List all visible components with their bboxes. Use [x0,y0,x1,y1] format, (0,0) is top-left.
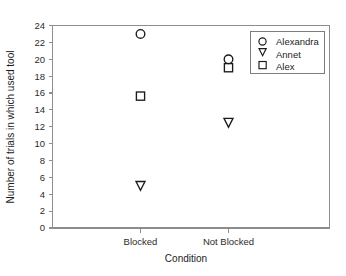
data-point-annet-blocked [136,182,145,191]
y-tick-label: 6 [40,172,45,183]
legend-label-alex: Alex [276,61,295,72]
y-tick-label: 10 [34,138,45,149]
legend-label-annet: Annet [276,49,301,60]
y-tick-label: 2 [40,205,45,216]
y-tick-label: 8 [40,155,45,166]
y-tick-label: 4 [40,189,45,200]
y-tick-label: 12 [34,121,45,132]
x-tick-label-not-blocked: Not Blocked [203,236,254,247]
x-axis-ticks [141,228,229,233]
legend: Alexandra Annet Alex [251,32,325,74]
data-point-alex-blocked [136,92,144,100]
x-axis-title: Condition [165,253,207,264]
data-point-alex-not-blocked [224,64,232,72]
y-tick-label: 22 [34,37,45,48]
y-tick-label: 14 [34,104,45,115]
data-point-annet-not-blocked [224,118,233,127]
y-tick-label: 18 [34,71,45,82]
data-point-alexandra-blocked [136,30,145,39]
x-axis-tick-labels: Blocked Not Blocked [124,236,255,247]
y-axis-ticks [49,26,53,229]
data-point-alexandra-not-blocked [224,55,233,64]
y-axis-tick-labels: 0 2 4 6 8 10 12 14 16 18 20 22 24 [34,20,45,233]
y-axis-title: Number of trials in which used tool [5,51,16,204]
y-tick-label: 24 [34,20,45,31]
y-tick-label: 20 [34,54,45,65]
y-tick-label: 0 [40,222,45,233]
y-tick-label: 16 [34,87,45,98]
scatter-chart: 0 2 4 6 8 10 12 14 16 18 20 22 24 Number… [0,0,346,276]
legend-label-alexandra: Alexandra [276,36,319,47]
x-tick-label-blocked: Blocked [124,236,158,247]
